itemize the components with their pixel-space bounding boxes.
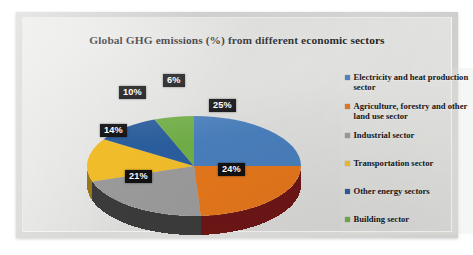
slice-label-other-energy: 10% xyxy=(119,86,146,99)
legend-swatch-icon xyxy=(345,217,350,222)
legend-swatch-icon xyxy=(345,75,350,80)
chart-title: Global GHG emissions (%) from different … xyxy=(23,34,451,46)
pie-chart: 25% 24% 21% 14% 10% 6% xyxy=(75,62,311,248)
slice-label-electricity: 25% xyxy=(209,99,236,112)
slide-content-area: Global GHG emissions (%) from different … xyxy=(22,17,452,232)
legend-swatch-icon xyxy=(345,161,350,166)
legend-swatch-icon xyxy=(345,189,350,194)
legend-swatch-icon xyxy=(345,104,350,109)
legend-label: Industrial sector xyxy=(354,130,415,140)
legend-swatch-icon xyxy=(345,133,350,138)
slice-label-transportation: 14% xyxy=(100,124,127,137)
slice-label-industrial: 21% xyxy=(125,170,152,183)
legend-item-transportation[interactable]: Transportation sector xyxy=(345,158,471,168)
legend-label: Electricity and heat production sector xyxy=(354,72,472,93)
legend-label: Transportation sector xyxy=(354,158,434,168)
legend-item-industrial[interactable]: Industrial sector xyxy=(345,130,471,140)
legend-item-building[interactable]: Building sector xyxy=(345,214,471,224)
slice-label-building: 6% xyxy=(163,74,185,87)
legend-item-agriculture[interactable]: Agriculture, forestry and other land use… xyxy=(345,101,471,122)
legend-item-other-energy[interactable]: Other energy sectors xyxy=(345,186,471,196)
chart-legend: Electricity and heat production sector A… xyxy=(341,68,473,234)
slide-surface: Global GHG emissions (%) from different … xyxy=(16,12,458,238)
slice-label-agriculture: 24% xyxy=(218,163,245,176)
pie-chart-svg xyxy=(75,62,311,248)
legend-item-electricity[interactable]: Electricity and heat production sector xyxy=(345,72,471,93)
legend-label: Building sector xyxy=(354,214,410,224)
legend-label: Other energy sectors xyxy=(354,186,430,196)
legend-label: Agriculture, forestry and other land use… xyxy=(354,101,472,122)
